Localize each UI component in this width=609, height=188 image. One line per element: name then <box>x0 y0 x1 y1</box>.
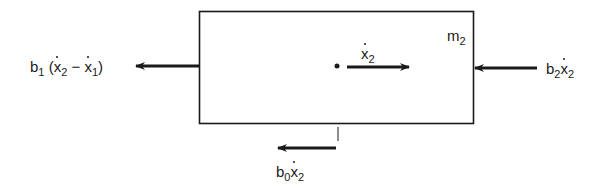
coef-sub: 1 <box>38 66 44 78</box>
velocity-symbol: x <box>361 46 369 61</box>
velocity: x <box>290 164 298 179</box>
mass-subscript: 2 <box>460 35 466 47</box>
center-of-mass-dot <box>335 64 340 69</box>
minus-sign: − <box>71 58 80 75</box>
paren-close: ) <box>98 58 103 75</box>
velocity-label: x2 <box>361 46 375 61</box>
mass-symbol: m <box>447 27 460 44</box>
velocity-sub: 2 <box>568 68 574 80</box>
velocity-2: x <box>84 59 92 74</box>
free-body-diagram <box>0 0 609 188</box>
right-damping-force-label: b2x2 <box>546 61 574 76</box>
mass-label: m2 <box>447 28 466 43</box>
velocity-1-sub: 2 <box>61 66 67 78</box>
velocity-1: x <box>54 59 62 74</box>
velocity: x <box>560 61 568 76</box>
velocity-sub: 2 <box>298 171 304 183</box>
left-damping-force-label: b1 (x2 − x1) <box>30 59 103 74</box>
bottom-damping-force-label: b0x2 <box>276 164 304 179</box>
velocity-subscript: 2 <box>369 53 375 65</box>
